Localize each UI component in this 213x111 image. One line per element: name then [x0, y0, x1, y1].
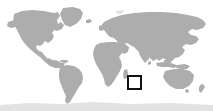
world-locator-map [0, 0, 213, 111]
world-map-svg [0, 0, 213, 111]
locator-box [127, 75, 142, 90]
